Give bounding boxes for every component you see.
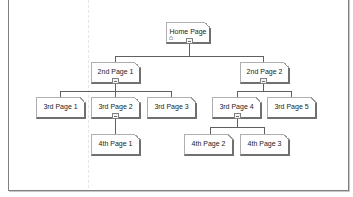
node-label: 2nd Page 1 bbox=[98, 68, 134, 75]
connector bbox=[264, 127, 265, 134]
page-corner-icon bbox=[284, 62, 290, 68]
connector bbox=[210, 127, 211, 134]
page-corner-icon bbox=[191, 97, 197, 103]
node-3rd-page-3[interactable]: 3rd Page 3 bbox=[147, 97, 197, 119]
node-label: 4th Page 1 bbox=[99, 140, 133, 147]
page-corner-icon bbox=[311, 97, 317, 103]
node-label: 4th Page 2 bbox=[192, 140, 226, 147]
page-corner-icon bbox=[205, 22, 211, 28]
home-icon: ⌂ bbox=[169, 34, 173, 41]
connector bbox=[237, 119, 238, 127]
node-label: 3rd Page 4 bbox=[219, 103, 253, 110]
collapse-toggle[interactable] bbox=[186, 38, 193, 44]
node-label: 3rd Page 1 bbox=[43, 103, 77, 110]
connector bbox=[237, 91, 292, 92]
page-corner-icon bbox=[135, 62, 141, 68]
page-corner-icon bbox=[256, 97, 262, 103]
page-corner-icon bbox=[135, 134, 141, 140]
node-3rd-page-5[interactable]: 3rd Page 5 bbox=[267, 97, 317, 119]
connector bbox=[115, 119, 116, 134]
node-4th-page-1[interactable]: 4th Page 1 bbox=[91, 134, 141, 156]
collapse-toggle[interactable] bbox=[112, 78, 119, 84]
page-corner-icon bbox=[228, 134, 234, 140]
connector bbox=[115, 84, 116, 91]
node-label: 3rd Page 5 bbox=[274, 103, 308, 110]
page-corner-icon bbox=[135, 97, 141, 103]
node-label: Home Page bbox=[170, 28, 207, 35]
connector bbox=[210, 127, 265, 128]
node-4th-page-2[interactable]: 4th Page 2 bbox=[184, 134, 234, 156]
node-label: 3rd Page 2 bbox=[98, 103, 132, 110]
page-corner-icon bbox=[284, 134, 290, 140]
connector bbox=[263, 84, 264, 91]
connector bbox=[115, 56, 264, 57]
node-label: 2nd Page 2 bbox=[247, 68, 283, 75]
collapse-toggle[interactable] bbox=[260, 78, 267, 84]
page-corner-icon bbox=[80, 97, 86, 103]
node-4th-page-3[interactable]: 4th Page 3 bbox=[240, 134, 290, 156]
page-break-guide bbox=[88, 0, 89, 188]
connector bbox=[189, 44, 190, 56]
node-3rd-page-1[interactable]: 3rd Page 1 bbox=[36, 97, 86, 119]
connector bbox=[60, 91, 172, 92]
node-label: 3rd Page 3 bbox=[154, 103, 188, 110]
collapse-toggle[interactable] bbox=[112, 113, 119, 119]
node-label: 4th Page 3 bbox=[248, 140, 282, 147]
collapse-toggle[interactable] bbox=[234, 113, 241, 119]
